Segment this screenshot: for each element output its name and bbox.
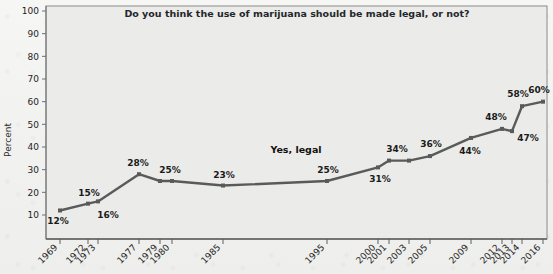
data-label: 25%: [317, 165, 339, 175]
data-label: 48%: [485, 112, 507, 122]
x-tick-label: 1977: [115, 242, 138, 265]
x-tick-label: 2009: [447, 242, 470, 265]
chart-container: Percent 100908070605040302010 1969197219…: [0, 0, 553, 274]
y-tick-label: 40: [28, 142, 40, 152]
y-tick-label: 10: [28, 210, 40, 220]
data-label: 60%: [528, 85, 550, 95]
data-point-marker: [376, 165, 380, 169]
x-tick-label: 2003: [385, 242, 408, 265]
data-point-marker: [541, 100, 545, 104]
data-point-marker: [387, 159, 391, 163]
data-point-marker: [325, 179, 329, 183]
y-axis-title: Percent: [3, 123, 13, 157]
chart-title: Do you think the use of marijuana should…: [124, 8, 469, 19]
data-point-marker: [96, 199, 100, 203]
plot-area: [46, 6, 547, 239]
data-label: 16%: [97, 210, 119, 220]
x-axis-ticks: 1969197219731977197919801985199520002001…: [36, 239, 543, 266]
y-tick-label: 30: [28, 165, 40, 175]
y-tick-label: 90: [28, 29, 40, 39]
y-tick-label: 50: [28, 120, 40, 130]
x-tick-label: 1995: [303, 242, 326, 265]
data-point-marker: [407, 159, 411, 163]
data-point-marker: [86, 202, 90, 206]
data-point-marker: [428, 154, 432, 158]
x-tick-label: 1985: [199, 242, 222, 265]
data-point-marker: [137, 172, 141, 176]
data-point-marker: [158, 179, 162, 183]
series-annotation-yes-legal: Yes, legal: [269, 144, 321, 155]
data-point-marker: [520, 104, 524, 108]
line-chart: Percent 100908070605040302010 1969197219…: [0, 0, 553, 274]
data-label: 36%: [420, 139, 442, 149]
data-label: 34%: [386, 144, 408, 154]
data-label: 12%: [47, 216, 69, 226]
y-tick-label: 20: [28, 188, 40, 198]
data-label: 23%: [213, 170, 235, 180]
data-label: 31%: [369, 174, 391, 184]
data-label: 47%: [517, 133, 539, 143]
data-point-marker: [469, 136, 473, 140]
y-tick-label: 100: [22, 6, 39, 16]
data-point-marker: [510, 129, 514, 133]
data-point-marker: [221, 184, 225, 188]
data-point-marker: [170, 179, 174, 183]
y-axis-ticks: 100908070605040302010: [22, 6, 46, 220]
x-tick-label: 1969: [36, 242, 59, 265]
data-label: 28%: [127, 158, 149, 168]
x-tick-label: 2016: [519, 242, 542, 265]
y-tick-label: 70: [28, 74, 40, 84]
data-label: 15%: [78, 188, 100, 198]
data-label: 44%: [459, 146, 481, 156]
x-tick-label: 2005: [406, 242, 429, 265]
data-point-marker: [500, 127, 504, 131]
data-label: 25%: [159, 165, 181, 175]
data-point-marker: [58, 208, 62, 212]
y-tick-label: 80: [28, 52, 40, 62]
y-tick-label: 60: [28, 97, 40, 107]
data-label: 58%: [507, 89, 529, 99]
